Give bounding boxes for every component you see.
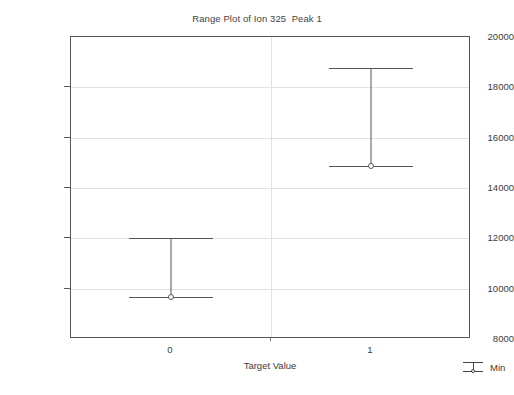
chart-legend: Min [462,360,505,374]
x-tick-mark [270,337,271,341]
gridline-horizontal [71,289,469,290]
x-tick-label: 1 [367,344,372,355]
range-stem [171,238,172,297]
x-axis-title: Target Value [70,360,470,371]
gridline-vertical [271,37,272,337]
x-tick-label: 0 [167,344,172,355]
range-cap-max [329,68,413,69]
range-cap-max [129,238,213,239]
legend-label-min: Min [490,362,505,373]
gridline-horizontal [71,138,469,139]
range-min-point [168,294,174,300]
chart-title: Range Plot of Ion 325 Peak 1 [0,13,514,24]
plot-area [70,36,470,338]
range-min-point [368,163,374,169]
gridline-horizontal [71,87,469,88]
range-plot-chart: Range Plot of Ion 325 Peak 1 Ion count 2… [0,0,514,395]
range-stem [371,68,372,166]
range-min-marker-icon [462,360,484,374]
gridline-horizontal [71,188,469,189]
